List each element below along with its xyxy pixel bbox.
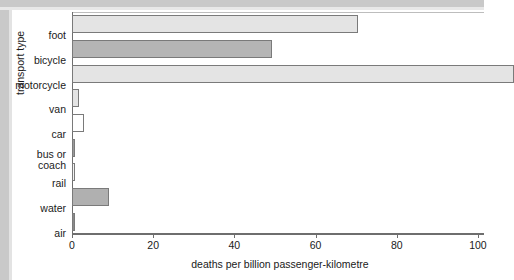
x-axis: 020406080100 xyxy=(72,233,484,247)
x-tick-80 xyxy=(397,233,398,238)
bar-rail xyxy=(72,163,75,181)
x-tick-0 xyxy=(72,233,73,238)
bar-bus-or-coach xyxy=(72,139,75,157)
x-tick-label-100: 100 xyxy=(469,239,487,251)
y-tick-label-van: van xyxy=(49,104,66,115)
x-axis-title-text: deaths per billion passenger-kilometre xyxy=(191,258,368,270)
x-tick-100 xyxy=(478,233,479,238)
y-tick-label-bicycle: bicycle xyxy=(34,55,66,66)
y-tick-label-air: air xyxy=(54,228,66,239)
page-gutter-top-inner xyxy=(0,7,484,10)
x-tick-label-40: 40 xyxy=(229,239,241,251)
x-axis-title: deaths per billion passenger-kilometre xyxy=(0,258,484,270)
y-tick-label-foot: foot xyxy=(48,30,66,41)
y-tick-label-car: car xyxy=(51,129,66,140)
x-tick-20 xyxy=(153,233,154,238)
bar-water xyxy=(72,188,109,206)
x-tick-label-60: 60 xyxy=(310,239,322,251)
y-tick-label-water: water xyxy=(40,203,66,214)
bar-car xyxy=(72,114,84,132)
x-tick-40 xyxy=(234,233,235,238)
y-axis-tick-labels: footbicyclemotorcyclevancarbus or coachr… xyxy=(0,12,70,234)
bar-bicycle xyxy=(72,40,272,58)
x-tick-60 xyxy=(316,233,317,238)
x-tick-label-80: 80 xyxy=(391,239,403,251)
x-tick-label-0: 0 xyxy=(69,239,75,251)
y-tick-label-motorcycle: motorcycle xyxy=(15,80,66,91)
bar-air xyxy=(72,213,75,231)
plot-area xyxy=(72,12,484,234)
bar-motorcycle xyxy=(72,65,514,83)
page-gutter-top xyxy=(0,0,484,7)
y-tick-label-bus-or-coach: bus or coach xyxy=(37,149,66,171)
bar-foot xyxy=(72,15,358,33)
y-tick-label-rail: rail xyxy=(52,178,66,189)
x-tick-label-20: 20 xyxy=(147,239,159,251)
bar-van xyxy=(72,89,79,107)
x-axis-line xyxy=(72,233,484,235)
